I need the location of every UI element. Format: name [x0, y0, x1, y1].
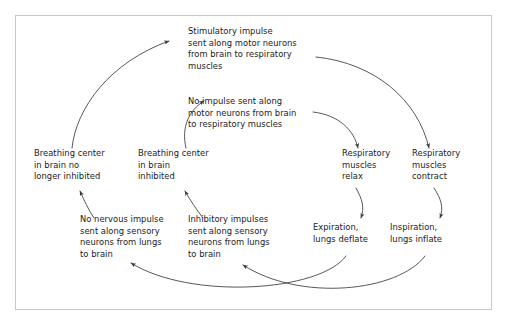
node-inhibitory-impulses: Inhibitory impulses sent along sensory n…: [188, 214, 270, 260]
node-inspiration: Inspiration, lungs inflate: [390, 222, 442, 245]
node-breathing-center-inhibited: Breathing center in brain inhibited: [138, 148, 209, 183]
node-muscles-contract: Respiratory muscles contract: [412, 148, 460, 183]
diagram-page: Stimulatory impulse sent along motor neu…: [0, 0, 508, 326]
node-muscles-relax: Respiratory muscles relax: [342, 148, 390, 183]
node-expiration: Expiration, lungs deflate: [313, 222, 368, 245]
node-stimulatory-impulse: Stimulatory impulse sent along motor neu…: [188, 26, 297, 72]
node-no-nervous-impulse: No nervous impulse sent along sensory ne…: [80, 214, 164, 260]
node-breathing-center-not-inhibited: Breathing center in brain no longer inhi…: [34, 148, 105, 183]
node-no-impulse: No impulse sent along motor neurons from…: [188, 96, 296, 131]
